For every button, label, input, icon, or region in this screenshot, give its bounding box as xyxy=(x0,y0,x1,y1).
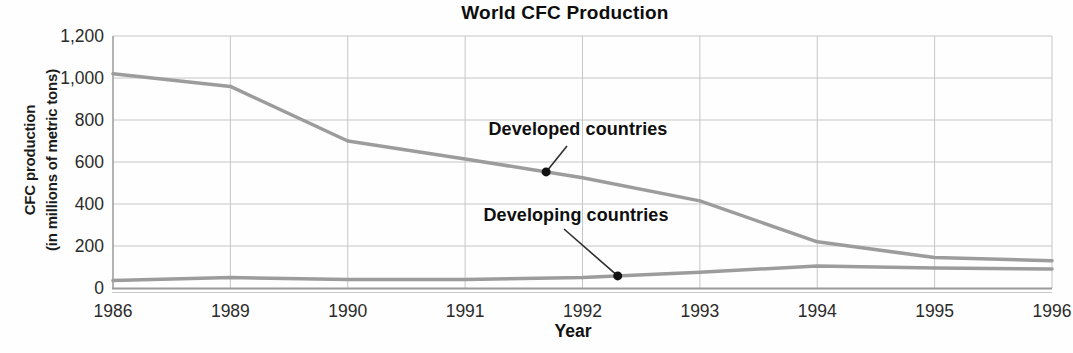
y-axis-title-line1: CFC production xyxy=(19,69,41,251)
y-tick-label: 400 xyxy=(75,194,104,214)
chart-title: World CFC Production xyxy=(461,2,668,24)
plot-area: 02004006008001,0001,20019861989199019911… xyxy=(0,0,1073,353)
x-tick-label: 1995 xyxy=(915,301,954,321)
annotation-developing-countries: Developing countries xyxy=(483,205,668,226)
y-tick-label: 800 xyxy=(75,110,104,130)
y-axis-title-line2: (in millions of metric tons) xyxy=(41,69,63,251)
x-tick-label: 1990 xyxy=(328,301,367,321)
y-tick-label: 0 xyxy=(94,278,104,298)
annotation-dot-developing-countries xyxy=(613,271,622,280)
annotation-leader-developed-countries xyxy=(546,146,567,172)
annotation-leader-developing-countries xyxy=(564,229,618,276)
x-tick-label: 1994 xyxy=(798,301,837,321)
x-tick-label: 1996 xyxy=(1033,301,1072,321)
y-axis-title: CFC production (in millions of metric to… xyxy=(19,69,63,251)
cfc-production-line-chart: 02004006008001,0001,20019861989199019911… xyxy=(0,0,1073,353)
y-tick-label: 200 xyxy=(75,236,104,256)
x-axis-title: Year xyxy=(555,321,592,342)
x-tick-label: 1986 xyxy=(94,301,133,321)
annotation-dot-developed-countries xyxy=(542,167,551,176)
x-tick-label: 1993 xyxy=(680,301,719,321)
annotation-developed-countries: Developed countries xyxy=(489,119,668,140)
y-tick-label: 600 xyxy=(75,152,104,172)
x-tick-label: 1991 xyxy=(446,301,485,321)
y-tick-label: 1,000 xyxy=(60,68,104,88)
y-tick-label: 1,200 xyxy=(60,26,104,46)
x-tick-label: 1989 xyxy=(211,301,250,321)
x-tick-label: 1992 xyxy=(563,301,602,321)
